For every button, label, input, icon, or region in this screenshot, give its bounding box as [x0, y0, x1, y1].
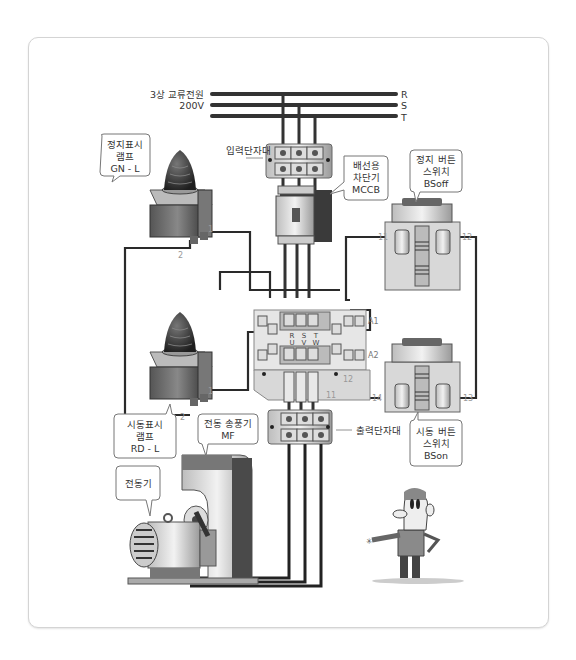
blower-line-2: MF	[221, 430, 235, 441]
callout-start-button: 시동 버튼 스위치 BSon	[410, 412, 462, 466]
start-lamp-line-1: 시동표시	[127, 419, 163, 430]
lamp-bottom-terminal-1: 1	[208, 387, 213, 396]
magnetic-contactor: R S T U V W A1 A2 12 11	[254, 310, 379, 402]
supply-wires	[283, 94, 315, 146]
mccb-breaker	[276, 186, 332, 244]
blower-line-1: 전동 송풍기	[204, 418, 252, 429]
callout-mccb: 배선용 차단기 MCCB	[330, 156, 388, 200]
start-lamp-line-3: RD - L	[131, 443, 160, 454]
coil-a2: A2	[368, 351, 379, 360]
coil-a1: A1	[368, 317, 379, 326]
contactor-v: V	[302, 339, 307, 347]
phase-s: S	[401, 100, 407, 111]
input-terminal-label: 입력단자대	[226, 145, 271, 156]
power-label-2: 200V	[179, 100, 204, 111]
output-terminal-label: 출력단자대	[356, 425, 401, 436]
lamp-top-terminal-1: 1	[208, 225, 213, 234]
start-button-terminal-14: 14	[372, 394, 382, 403]
stop-button-line-3: BSoff	[424, 178, 449, 189]
output-terminal-block: 출력단자대	[268, 410, 401, 444]
callout-start-lamp: 시동표시 램프 RD - L	[114, 404, 176, 458]
start-lamp-line-2: 램프	[136, 431, 154, 442]
contactor-u: U	[289, 339, 294, 347]
motor-line-1: 전동기	[125, 478, 152, 489]
phase-r: R	[401, 89, 408, 100]
lamp-bottom-terminal-2: 2	[180, 413, 185, 422]
relay-terminal-11: 11	[326, 391, 336, 400]
start-push-button: 14 13	[372, 338, 473, 412]
stop-button-line-1: 정지 버튼	[416, 154, 455, 165]
presenter-character: ✳	[366, 488, 464, 584]
wiring-diagram: 3상 교류전원 200V R S T 입력단자대	[0, 0, 576, 660]
relay-terminal-12: 12	[343, 375, 353, 384]
lamp-top-terminal-2: 2	[178, 251, 183, 260]
stop-push-button: 11 12	[378, 198, 472, 290]
stop-indicator-lamp: 1 2	[150, 150, 213, 260]
mccb-line-1: 배선용	[353, 160, 380, 171]
phase-t: T	[400, 112, 407, 123]
sparkle-icon: ✳	[366, 537, 373, 546]
stop-lamp-line-2: 램프	[116, 151, 134, 162]
stop-button-line-2: 스위치	[423, 166, 450, 177]
start-button-line-2: 스위치	[423, 438, 450, 449]
power-label-1: 3상 교류전원	[150, 89, 204, 100]
start-button-line-3: BSon	[424, 450, 448, 461]
start-button-terminal-13: 13	[463, 394, 473, 403]
start-button-line-1: 시동 버튼	[416, 426, 455, 437]
callout-blower: 전동 송풍기 MF	[198, 414, 258, 456]
start-indicator-lamp: 1 2	[150, 312, 213, 422]
power-bus: 3상 교류전원 200V R S T	[150, 89, 408, 123]
stop-button-terminal-12: 12	[462, 233, 472, 242]
stop-button-terminal-11: 11	[378, 233, 388, 242]
input-terminal-block: 입력단자대	[226, 144, 332, 178]
callout-stop-button: 정지 버튼 스위치 BSoff	[410, 150, 462, 202]
stop-lamp-line-1: 정지표시	[107, 139, 143, 150]
stop-lamp-line-3: GN - L	[110, 163, 140, 174]
callout-motor: 전동기	[116, 466, 160, 516]
callout-stop-lamp: 정지표시 램프 GN - L	[100, 134, 150, 182]
contactor-w: W	[313, 339, 320, 347]
mccb-line-2: 차단기	[353, 172, 380, 183]
mccb-line-3: MCCB	[352, 184, 380, 195]
